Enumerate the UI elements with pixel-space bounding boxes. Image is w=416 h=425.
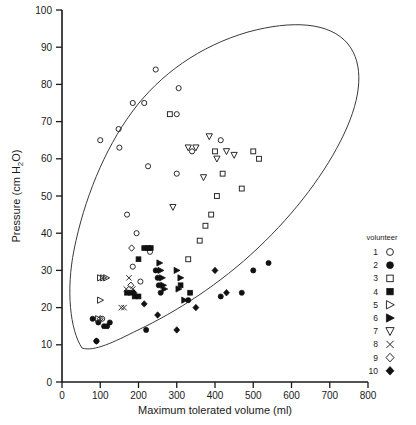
data-point <box>124 212 129 217</box>
x-tick-label: 100 <box>92 390 109 401</box>
data-point <box>186 257 191 262</box>
y-tick-label: 50 <box>41 191 53 202</box>
legend-item-10[interactable]: 10 <box>369 366 394 376</box>
legend-item-5[interactable]: 5 <box>373 300 394 310</box>
chart-canvas: Pressure (cm H2O) 0102030405060708090100… <box>0 0 416 425</box>
y-tick-label: 90 <box>41 42 53 53</box>
legend-marker-filled-square <box>387 288 393 294</box>
data-point <box>251 149 256 154</box>
legend-item-1[interactable]: 1 <box>373 247 393 257</box>
legend-item-label: 8 <box>373 339 378 349</box>
legend-item-label: 1 <box>373 247 378 257</box>
legend-title: volunteer <box>367 233 398 242</box>
y-axis-title-prefix: Pressure (cm H <box>10 166 22 242</box>
legend-item-7[interactable]: 7 <box>373 326 394 336</box>
data-point <box>174 171 179 176</box>
data-point <box>197 238 202 243</box>
data-point <box>129 245 135 251</box>
data-point <box>176 86 181 91</box>
data-point <box>223 149 229 155</box>
series-7 <box>170 134 237 211</box>
data-point <box>193 304 199 310</box>
data-point <box>174 267 180 273</box>
data-point <box>257 156 262 161</box>
x-tick-label: 500 <box>245 390 262 401</box>
data-point <box>90 316 95 321</box>
data-point <box>170 204 176 210</box>
data-point <box>98 138 103 143</box>
data-point <box>145 164 150 169</box>
legend-item-label: 3 <box>373 273 378 283</box>
data-point <box>153 268 158 273</box>
data-point <box>117 145 122 150</box>
legend-item-label: 5 <box>373 300 378 310</box>
legend-item-9[interactable]: 9 <box>373 353 394 363</box>
legend-item-8[interactable]: 8 <box>373 339 393 349</box>
legend-marker-open-down-triangle <box>386 328 394 336</box>
data-point <box>107 320 112 325</box>
x-tick-label: 200 <box>130 390 147 401</box>
data-point <box>218 294 223 299</box>
legend-item-label: 9 <box>373 353 378 363</box>
legend-item-label: 7 <box>373 326 378 336</box>
legend-marker-open-circle <box>387 249 394 256</box>
legend-item-2[interactable]: 2 <box>373 260 393 270</box>
x-axis-ticks: 0100200300400500600700800 <box>59 382 377 401</box>
series-2 <box>90 260 271 343</box>
y-axis-title-suffix: O) <box>10 149 22 161</box>
legend-item-6[interactable]: 6 <box>373 313 394 323</box>
data-point <box>239 290 244 295</box>
legend: volunteer 12345678910 <box>367 233 398 376</box>
legend-item-label: 10 <box>369 366 379 376</box>
data-point <box>174 327 180 333</box>
x-tick-label: 600 <box>283 390 300 401</box>
data-point <box>119 305 124 310</box>
data-point <box>98 297 104 303</box>
legend-item-label: 4 <box>373 287 378 297</box>
y-axis-title: Pressure (cm H2O) <box>10 149 25 242</box>
data-point <box>189 149 194 154</box>
data-point <box>130 264 135 269</box>
legend-marker-filled-diamond <box>386 366 394 375</box>
y-axis-ticks: 0102030405060708090100 <box>35 5 62 388</box>
x-axis-title: Maximum tolerated volume (ml) <box>138 404 292 416</box>
data-point <box>178 283 183 288</box>
x-tick-label: 300 <box>168 390 185 401</box>
data-point <box>214 156 220 162</box>
data-point <box>93 338 99 344</box>
y-tick-label: 60 <box>41 153 53 164</box>
legend-item-label: 2 <box>373 260 378 270</box>
y-tick-label: 20 <box>41 302 53 313</box>
x-tick-label: 400 <box>207 390 224 401</box>
data-point <box>251 268 256 273</box>
legend-item-3[interactable]: 3 <box>373 273 393 283</box>
data-point <box>121 305 126 310</box>
x-tick-label: 0 <box>59 390 65 401</box>
legend-marker-open-diamond <box>386 353 394 362</box>
svg-text:Pressure (cm H2O): Pressure (cm H2O) <box>10 149 25 242</box>
x-tick-label: 800 <box>360 390 377 401</box>
scatter-plot-figure: Pressure (cm H2O) 0102030405060708090100… <box>0 0 416 425</box>
data-point <box>220 171 225 176</box>
data-point <box>174 112 179 117</box>
data-point <box>141 301 147 307</box>
data-point <box>178 275 184 281</box>
legend-marker-filled-right-triangle <box>386 314 394 322</box>
data-point <box>214 194 219 199</box>
series-6 <box>157 260 188 303</box>
y-tick-label: 100 <box>35 5 52 16</box>
data-point <box>200 175 206 181</box>
data-point <box>162 286 168 292</box>
legend-items: 12345678910 <box>369 247 395 376</box>
data-point <box>160 275 166 281</box>
legend-marker-x-cross <box>386 341 393 348</box>
legend-item-label: 6 <box>373 313 378 323</box>
legend-item-4[interactable]: 4 <box>373 287 393 297</box>
legend-marker-open-square <box>387 275 393 281</box>
data-point <box>158 267 164 273</box>
data-point <box>212 267 218 273</box>
x-tick-label: 700 <box>321 390 338 401</box>
y-tick-label: 70 <box>41 116 53 127</box>
y-tick-label: 10 <box>41 339 53 350</box>
y-tick-label: 80 <box>41 79 53 90</box>
